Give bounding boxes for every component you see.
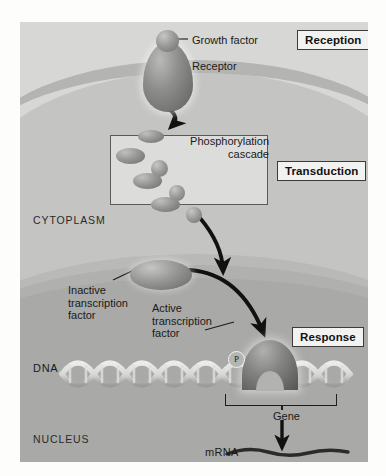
label-mrna: mRNA <box>205 446 239 459</box>
label-phosphorylation-cascade: Phosphorylation cascade <box>173 135 269 160</box>
label-dna: DNA <box>33 362 58 375</box>
kinase-ellipse-2 <box>133 173 162 189</box>
stage-label-transduction: Transduction <box>277 161 366 181</box>
kinase-ellipse-0 <box>138 130 164 143</box>
arrow-cascade-to-nucleus <box>200 218 223 270</box>
page-root: P Reception Transduction Response Growth… <box>0 0 386 476</box>
label-inactive-transcription-factor: Inactive transcription factor <box>68 284 128 322</box>
kinase-sphere-3 <box>186 207 202 223</box>
stage-label-response: Response <box>292 327 364 347</box>
arrow-receptor-to-cascade <box>170 110 176 126</box>
label-receptor: Receptor <box>192 60 237 73</box>
label-growth-factor: Growth factor <box>192 34 258 47</box>
gene-bracket <box>225 394 337 406</box>
kinase-ellipse-1 <box>116 148 145 164</box>
growth-factor-ligand <box>156 30 179 52</box>
label-cytoplasm: CYTOPLASM <box>33 214 106 226</box>
label-gene: Gene <box>273 410 300 423</box>
stage-label-reception: Reception <box>297 30 368 50</box>
signal-transduction-figure: P Reception Transduction Response Growth… <box>20 22 368 462</box>
inactive-transcription-factor <box>130 260 192 290</box>
label-nucleus: NUCLEUS <box>33 433 89 445</box>
kinase-ellipse-3 <box>151 197 180 212</box>
label-active-transcription-factor: Active transcription factor <box>152 302 212 340</box>
phosphate-group-icon: P <box>228 351 245 368</box>
